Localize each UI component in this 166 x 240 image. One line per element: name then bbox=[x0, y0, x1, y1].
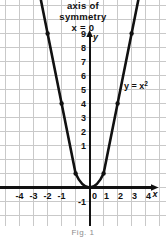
axis-of-symmetry-equation: x = 0 bbox=[72, 22, 95, 33]
curve-label-base: y = x bbox=[124, 81, 144, 91]
y-tick-label: 3 bbox=[81, 113, 86, 123]
y-tick-label: 6 bbox=[81, 71, 86, 81]
axis-of-symmetry-line2: symmetry bbox=[59, 11, 107, 22]
y-axis-name-label: y bbox=[92, 32, 99, 42]
x-tick-label: -2 bbox=[44, 191, 52, 201]
x-tick-label: -1 bbox=[58, 191, 66, 201]
figure-caption: Fig. 1 bbox=[0, 226, 166, 240]
y-tick-label: 5 bbox=[81, 85, 86, 95]
data-point bbox=[73, 171, 77, 175]
y-tick-label: 7 bbox=[81, 57, 86, 67]
curve-label-exponent: 2 bbox=[144, 80, 148, 87]
axis-of-symmetry-line1: axis of bbox=[67, 0, 100, 11]
data-point bbox=[129, 31, 133, 35]
x-tick-label: 3 bbox=[132, 191, 137, 201]
x-tick-label: 4 bbox=[146, 191, 151, 201]
x-tick-label: 1 bbox=[104, 191, 109, 201]
y-tick-label: -1 bbox=[78, 197, 86, 207]
x-tick-label: 0 bbox=[92, 191, 97, 201]
data-point bbox=[115, 101, 119, 105]
x-axis-name-label: x bbox=[151, 189, 158, 199]
data-point bbox=[101, 171, 105, 175]
y-tick-label: 4 bbox=[81, 99, 86, 109]
y-tick-label: 2 bbox=[81, 127, 86, 137]
graph-canvas: 9 8 7 6 5 4 3 2 1 -1 -4 -3 -2 -1 0 1 2 3… bbox=[0, 0, 166, 226]
y-tick-label: 1 bbox=[81, 141, 86, 151]
data-point bbox=[59, 101, 63, 105]
data-point bbox=[45, 31, 49, 35]
x-tick-label: 2 bbox=[118, 191, 123, 201]
y-tick-label: 8 bbox=[81, 43, 86, 53]
figure-parabola: 9 8 7 6 5 4 3 2 1 -1 -4 -3 -2 -1 0 1 2 3… bbox=[0, 0, 166, 226]
x-tick-label: -3 bbox=[30, 191, 38, 201]
x-tick-label: -4 bbox=[16, 191, 24, 201]
